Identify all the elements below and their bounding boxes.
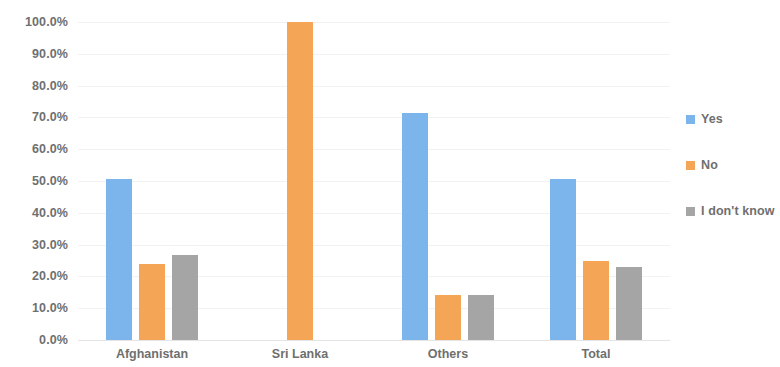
legend-label: Yes: [701, 112, 723, 126]
legend-swatch-icon: [686, 207, 695, 216]
y-tick-label: 0.0%: [0, 334, 68, 347]
bar[interactable]: [550, 179, 576, 340]
bar-group: [374, 22, 522, 340]
bar[interactable]: [172, 255, 198, 340]
y-tick-label: 30.0%: [0, 238, 68, 251]
legend: YesNoI don't know: [686, 112, 780, 250]
bar-chart: 100.0%90.0%80.0%70.0%60.0%50.0%40.0%30.0…: [0, 0, 780, 367]
legend-swatch-icon: [686, 115, 695, 124]
bar[interactable]: [583, 261, 609, 341]
legend-item[interactable]: Yes: [686, 112, 780, 126]
bar[interactable]: [435, 295, 461, 340]
bar[interactable]: [402, 113, 428, 340]
legend-label: I don't know: [701, 204, 775, 218]
y-tick-label: 90.0%: [0, 47, 68, 60]
y-tick-label: 50.0%: [0, 175, 68, 188]
x-tick-label: Afghanistan: [78, 341, 226, 367]
bar[interactable]: [616, 267, 642, 340]
bar[interactable]: [287, 22, 313, 340]
bar-group: [522, 22, 670, 340]
bar-group: [226, 22, 374, 340]
y-tick-label: 60.0%: [0, 143, 68, 156]
bar[interactable]: [468, 295, 494, 340]
x-tick-label: Sri Lanka: [226, 341, 374, 367]
bar[interactable]: [139, 264, 165, 340]
plot-area: [78, 22, 670, 340]
legend-swatch-icon: [686, 161, 695, 170]
y-tick-label: 70.0%: [0, 111, 68, 124]
y-tick-label: 100.0%: [0, 16, 68, 29]
x-tick-label: Total: [522, 341, 670, 367]
y-tick-label: 20.0%: [0, 270, 68, 283]
x-tick-label: Others: [374, 341, 522, 367]
legend-item[interactable]: I don't know: [686, 204, 780, 218]
legend-item[interactable]: No: [686, 158, 780, 172]
x-axis: AfghanistanSri LankaOthersTotal: [78, 341, 670, 367]
y-axis: 100.0%90.0%80.0%70.0%60.0%50.0%40.0%30.0…: [0, 0, 78, 367]
bar-group: [78, 22, 226, 340]
y-tick-label: 10.0%: [0, 302, 68, 315]
legend-label: No: [701, 158, 718, 172]
bar[interactable]: [106, 179, 132, 340]
bar-groups: [78, 22, 670, 340]
y-tick-label: 40.0%: [0, 206, 68, 219]
y-tick-label: 80.0%: [0, 79, 68, 92]
